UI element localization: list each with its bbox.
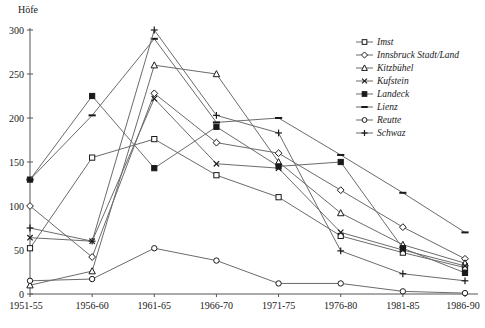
marker-square-filled <box>362 92 367 97</box>
x-tick-label: 1956-60 <box>75 300 108 311</box>
marker-circle-open <box>362 118 367 123</box>
marker-square-open <box>27 246 32 251</box>
legend-item-landeck: Landeck <box>356 89 410 99</box>
marker-circle-open <box>214 258 219 263</box>
marker-square-filled <box>214 124 219 129</box>
x-tick-label: 1966-70 <box>200 300 233 311</box>
marker-square-filled <box>338 159 343 164</box>
y-tick-labels: 050100150200250300 <box>9 25 24 300</box>
x-tick-label: 1951-55 <box>9 300 42 311</box>
marker-square-filled <box>276 164 281 169</box>
y-tick-label: 200 <box>9 113 24 124</box>
marker-square-filled <box>462 270 467 275</box>
marker-circle-open <box>152 246 157 251</box>
x-tick-label: 1961-65 <box>138 300 171 311</box>
legend-label: Kufstein <box>376 76 409 86</box>
x-tick-label: 1986-90 <box>446 300 479 311</box>
legend-item-kufstein: Kufstein <box>356 76 409 86</box>
legend-label: Lienz <box>376 102 398 112</box>
y-tick-label: 300 <box>9 25 24 36</box>
series-landeck <box>27 93 467 275</box>
marker-square-open <box>214 173 219 178</box>
marker-triangle-open <box>89 268 95 274</box>
legend: ImstInnsbruck Stadt/LandKitzbühelKufstei… <box>356 37 459 138</box>
legend-label: Kitzbühel <box>376 63 414 73</box>
y-tick-label: 250 <box>9 69 24 80</box>
x-tick-label: 1981-85 <box>386 300 419 311</box>
marker-square-filled <box>152 166 157 171</box>
legend-label: Innsbruck Stadt/Land <box>376 50 459 60</box>
legend-label: Landeck <box>376 89 410 99</box>
marker-plus <box>275 130 282 137</box>
y-tick-label: 0 <box>19 289 24 300</box>
marker-circle-open <box>462 290 467 295</box>
marker-square-filled <box>400 246 405 251</box>
marker-circle-open <box>89 276 94 281</box>
line-chart-canvas: 0501001502002503001951-551956-601961-651… <box>0 0 485 328</box>
marker-square-open <box>276 195 281 200</box>
legend-item-innsbruck-stadt-land: Innsbruck Stadt/Land <box>356 50 459 60</box>
line-chart-figure: Höfe 0501001502002503001951-551956-60196… <box>0 0 485 328</box>
marker-plus <box>213 112 220 119</box>
marker-circle-open <box>338 281 343 286</box>
legend-item-imst: Imst <box>356 37 394 47</box>
legend-label: Imst <box>376 37 394 47</box>
marker-circle-open <box>400 289 405 294</box>
marker-square-open <box>90 155 95 160</box>
marker-diamond-open <box>361 52 367 58</box>
x-tick-labels: 1951-551956-601961-651966-701971-751976-… <box>9 300 479 311</box>
marker-diamond-open <box>337 187 344 194</box>
x-tick-label: 1971-75 <box>262 300 295 311</box>
legend-item-schwaz: Schwaz <box>356 128 406 138</box>
marker-plus <box>462 277 469 284</box>
marker-plus <box>399 270 406 277</box>
marker-square-open <box>362 40 367 45</box>
marker-diamond-open <box>399 224 406 231</box>
marker-triangle-open <box>151 62 157 68</box>
marker-square-open <box>152 137 157 142</box>
marker-square-filled <box>90 93 95 98</box>
marker-circle-open <box>27 278 32 283</box>
legend-label: Reutte <box>376 115 401 125</box>
legend-label: Schwaz <box>377 128 406 138</box>
x-tick-label: 1976-80 <box>324 300 357 311</box>
marker-plus <box>27 225 34 232</box>
y-tick-label: 150 <box>9 157 24 168</box>
y-tick-label: 100 <box>9 201 24 212</box>
marker-plus <box>361 130 367 136</box>
y-tick-label: 50 <box>14 245 24 256</box>
marker-plus <box>151 27 158 34</box>
legend-item-reutte: Reutte <box>356 115 401 125</box>
y-axis-title: Höfe <box>18 4 38 15</box>
legend-item-kitzb-hel: Kitzbühel <box>356 63 414 73</box>
legend-item-lienz: Lienz <box>356 102 398 112</box>
marker-circle-open <box>276 281 281 286</box>
marker-diamond-open <box>275 150 282 157</box>
marker-plus <box>337 247 344 254</box>
